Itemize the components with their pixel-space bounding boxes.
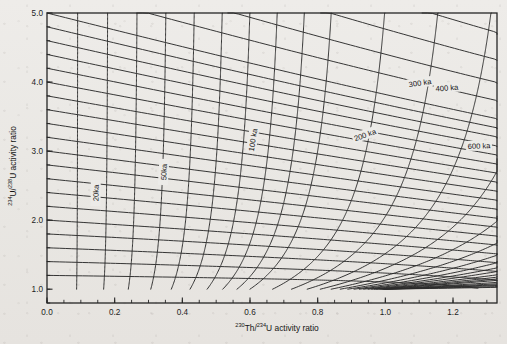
x-title-rest: U activity ratio — [266, 323, 319, 333]
initial-ratio-evolution-curves — [47, 13, 497, 288]
isochron-60ka — [190, 13, 222, 289]
evolution-curve-r0-6.9 — [422, 13, 497, 34]
svg-text:230Th/234U activity ratio: 230Th/234U activity ratio — [235, 322, 319, 333]
evolution-curve-r0-3.4 — [47, 123, 497, 191]
evolution-curve-r0-5.8 — [228, 13, 497, 83]
isochron-plot-svg: 0.00.20.40.60.81.01.2 1.02.03.04.05.0 20… — [0, 0, 507, 344]
x-tick-label: 0.8 — [312, 308, 324, 317]
x-tick-label: 1.2 — [447, 308, 459, 317]
y-axis-ticks — [47, 13, 53, 303]
x-title-th: Th/ — [245, 323, 258, 333]
isochron-figure: 0.00.20.40.60.81.01.2 1.02.03.04.05.0 20… — [0, 0, 507, 344]
y-tick-label: 1.0 — [32, 285, 44, 294]
x-tick-label: 0.6 — [244, 308, 256, 317]
isochron-160ka — [307, 13, 491, 289]
isochron-label-text: 300 ka — [408, 77, 433, 89]
x-tick-label: 0.4 — [177, 308, 189, 317]
isochron-50ka — [171, 13, 194, 289]
isochron-label-400ka: 400 ka — [434, 82, 461, 94]
y-tick-label: 4.0 — [32, 78, 44, 87]
x-title-sup-230: 230 — [235, 322, 244, 328]
y-title-sup-238: 238 — [7, 179, 13, 188]
x-tick-label: 0.2 — [109, 308, 121, 317]
svg-text:234U/238U activity ratio: 234U/238U activity ratio — [7, 126, 18, 206]
x-tick-label: 0.0 — [41, 308, 53, 317]
isochron-10ka — [77, 13, 78, 289]
x-tick-label: 1.0 — [380, 308, 392, 317]
evolution-curve-r0-2.6 — [47, 179, 497, 228]
isochron-20ka — [104, 13, 108, 289]
y-tick-label: 2.0 — [32, 216, 44, 225]
y-tick-label: 3.0 — [32, 147, 44, 156]
x-axis-title: 230Th/234U activity ratio — [235, 322, 319, 333]
evolution-curve-r0-3 — [47, 151, 497, 210]
isochron-label-text: 50ka — [159, 163, 169, 181]
x-title-sup-234: 234 — [257, 322, 266, 328]
isochron-label-100ka: 100 ka — [246, 126, 260, 153]
evolution-curve-r0-4.6 — [47, 41, 497, 138]
y-axis-tick-labels: 1.02.03.04.05.0 — [32, 9, 44, 294]
evolution-curve-r0-6.3 — [321, 13, 497, 60]
isochron-label-text: 400 ka — [435, 83, 459, 94]
y-tick-label: 5.0 — [32, 9, 44, 18]
isochron-label-20ka: 20ka — [90, 180, 100, 206]
isochron-label-300ka: 300 ka — [406, 76, 433, 89]
evolution-curve-r0-2.4 — [47, 193, 497, 237]
isochron-age-labels: 20ka50ka100 ka200 ka300 ka400 ka600 ka — [90, 76, 492, 206]
isochron-label-50ka: 50ka — [158, 159, 169, 186]
y-title-rest: U activity ratio — [8, 126, 18, 179]
isochron-30ka — [128, 13, 137, 289]
isochron-label-text: 600 ka — [467, 141, 491, 151]
isochron-label-600ka: 600 ka — [466, 140, 492, 151]
isochron-label-text: 20ka — [91, 184, 100, 201]
x-axis-ticks — [47, 298, 487, 304]
x-axis-tick-labels: 0.00.20.40.60.81.01.2 — [41, 308, 459, 317]
y-axis-title: 234U/238U activity ratio — [7, 126, 18, 206]
y-title-sup-234: 234 — [7, 196, 13, 205]
